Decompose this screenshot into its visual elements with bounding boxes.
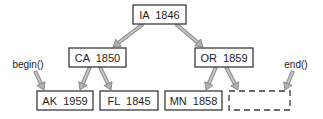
nodes-layer: IA 1846CA 1850OR 1859AK 1959FL 1845MN 18… bbox=[37, 5, 290, 110]
node-label: MN 1858 bbox=[170, 95, 218, 107]
node-label: CA 1850 bbox=[75, 52, 120, 64]
tree-diagram: begin()end() IA 1846CA 1850OR 1859AK 195… bbox=[0, 0, 323, 119]
node-label: IA 1846 bbox=[139, 9, 179, 21]
tree-node-fl: FL 1845 bbox=[100, 91, 158, 110]
end-pointer-arrow bbox=[284, 71, 293, 90]
edge-ca-to-ak bbox=[79, 67, 90, 90]
end-label: end() bbox=[284, 59, 307, 70]
begin-pointer-arrow bbox=[35, 71, 45, 90]
tree-node-mn: MN 1858 bbox=[165, 91, 222, 110]
node-label: OR 1859 bbox=[200, 52, 247, 64]
edge-or-to-end-sentinel bbox=[226, 67, 239, 90]
tree-node-ia: IA 1846 bbox=[133, 5, 186, 24]
begin-label: begin() bbox=[12, 59, 43, 70]
edge-or-to-mn bbox=[205, 67, 216, 90]
tree-node-ca: CA 1850 bbox=[69, 48, 126, 67]
tree-node-or: OR 1859 bbox=[195, 48, 253, 67]
tree-node-ak: AK 1959 bbox=[37, 91, 93, 110]
node-label: AK 1959 bbox=[42, 95, 87, 107]
end-sentinel-box bbox=[229, 91, 290, 110]
edge-ia-to-or bbox=[176, 24, 203, 47]
pointers-layer: begin()end() bbox=[12, 59, 307, 91]
edge-ia-to-ca bbox=[113, 24, 143, 47]
edge-ca-to-fl bbox=[100, 67, 112, 90]
tree-node-end-sentinel bbox=[229, 91, 290, 110]
node-label: FL 1845 bbox=[107, 95, 150, 107]
